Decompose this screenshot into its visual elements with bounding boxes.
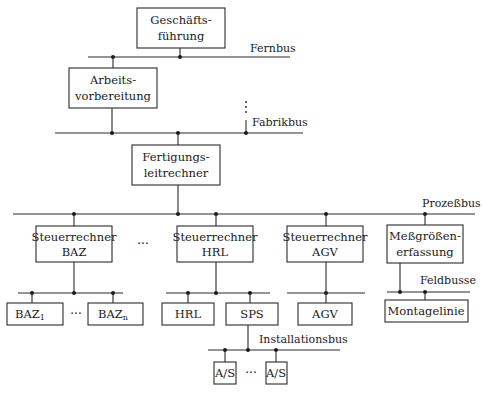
node-bazn: BAZn <box>88 303 143 325</box>
node-label: BAZ <box>98 307 123 321</box>
bus-installationsbus: Installationsbus <box>208 333 348 352</box>
node-as-2: A/S <box>265 362 287 384</box>
bus-label: Fabrikbus <box>252 116 308 129</box>
node-label: AGV <box>311 245 338 259</box>
node-agv: AGV <box>298 303 352 325</box>
node-steuerrechner-agv: Steuerrechner AGV <box>283 226 368 262</box>
node-label: Meßgrößen- <box>389 229 461 243</box>
node-label: vorbereitung <box>74 89 152 103</box>
node-messgroessenerfassung: Meßgrößen- erfassung <box>387 225 463 263</box>
node-montagelinie: Montagelinie <box>385 300 468 322</box>
node-hrl: HRL <box>162 303 214 325</box>
node-label: Arbeits- <box>89 73 136 87</box>
node-label: A/S <box>214 366 235 380</box>
node-label: SPS <box>240 307 264 321</box>
node-label: Fertigungs- <box>142 150 209 164</box>
node-geschaeftsfuehrung: Geschäfts- führung <box>137 8 225 48</box>
bus-label: Prozeßbus <box>422 197 481 210</box>
bus-baz-local <box>18 291 123 295</box>
bus-label: Feldbusse <box>420 274 476 287</box>
bus-label: Fernbus <box>250 42 296 55</box>
vertical-ellipsis <box>245 101 247 133</box>
node-label: leitrechner <box>144 166 209 180</box>
bus-label: Installationsbus <box>259 333 348 346</box>
bus-fabrikbus: Fabrikbus <box>55 116 308 135</box>
node-label: Steuerrechner <box>173 230 258 244</box>
node-arbeitsvorbereitung: Arbeits- vorbereitung <box>69 68 157 108</box>
horizontal-ellipsis: ··· <box>70 307 81 321</box>
node-label: Steuerrechner <box>32 230 117 244</box>
node-label: Montagelinie <box>388 304 465 318</box>
node-steuerrechner-hrl: Steuerrechner HRL <box>173 226 258 262</box>
node-label: A/S <box>265 366 286 380</box>
node-label: Steuerrechner <box>283 230 368 244</box>
node-fertigungsleitrechner: Fertigungs- leitrechner <box>132 145 220 185</box>
node-label: führung <box>158 29 205 43</box>
node-as-1: A/S <box>214 362 236 384</box>
node-label: HRL <box>175 307 202 321</box>
bus-hrl-local <box>166 291 270 295</box>
node-sps: SPS <box>226 303 278 325</box>
node-label: BAZ <box>62 245 87 259</box>
bus-prozessbus: Prozeßbus <box>13 197 481 216</box>
node-label: Geschäfts- <box>150 13 211 27</box>
horizontal-ellipsis: ··· <box>245 366 256 380</box>
node-subscript: n <box>123 313 128 322</box>
node-label: BAZ <box>15 307 40 321</box>
node-subscript: 1 <box>40 313 45 322</box>
node-label: HRL <box>202 245 229 259</box>
horizontal-ellipsis: ··· <box>137 237 148 251</box>
automation-hierarchy-diagram: Geschäfts- führung Fernbus Arbeits- vorb… <box>0 0 484 393</box>
node-label: erfassung <box>396 245 454 259</box>
node-baz1: BAZ1 <box>7 303 63 325</box>
node-steuerrechner-baz: Steuerrechner BAZ <box>32 226 117 262</box>
node-label: AGV <box>311 307 338 321</box>
